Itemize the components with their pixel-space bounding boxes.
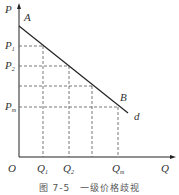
quantity-label-base: Q	[112, 162, 120, 174]
price-label-pm: Pm	[5, 101, 16, 113]
guide-level-1	[19, 46, 43, 157]
y-axis-label: P	[5, 4, 12, 15]
price-label-base: P	[5, 100, 12, 112]
price-label-p2: P2	[5, 60, 15, 72]
price-label-base: P	[5, 59, 12, 71]
price-label-base: P	[5, 39, 12, 51]
price-label-sub: m	[12, 107, 16, 113]
quantity-label-sub: 2	[71, 169, 74, 175]
quantity-label-sub: m	[120, 169, 124, 175]
y-axis-arrow-icon	[17, 3, 21, 9]
x-axis-label: Q	[161, 163, 169, 174]
quantity-label-q1: Q1	[37, 163, 48, 175]
guide-level-2	[19, 66, 69, 157]
demand-curve	[19, 26, 128, 113]
demand-d-label: d	[134, 111, 140, 122]
origin-label: O	[8, 163, 16, 174]
point-b-label: B	[120, 92, 127, 103]
point-a-label: A	[24, 12, 31, 23]
quantity-label-sub: 1	[45, 169, 48, 175]
price-label-p1: P1	[5, 40, 15, 52]
guide-level-3	[19, 86, 92, 157]
quantity-label-q2: Q2	[63, 163, 74, 175]
quantity-label-base: Q	[63, 162, 71, 174]
quantity-label-qm: Qm	[112, 163, 124, 175]
guide-level-m	[19, 107, 118, 157]
quantity-label-base: Q	[37, 162, 45, 174]
price-label-sub: 1	[12, 46, 15, 52]
figure-caption: 图 7-5 一级价格歧视	[0, 181, 179, 194]
diagram-canvas	[0, 0, 179, 195]
price-label-sub: 2	[12, 66, 15, 72]
x-axis-arrow-icon	[170, 155, 176, 159]
